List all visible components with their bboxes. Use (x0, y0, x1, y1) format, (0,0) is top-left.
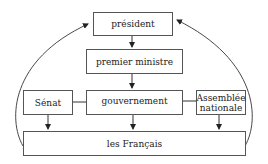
node-label: président (111, 19, 154, 29)
node-president: président (93, 12, 173, 36)
node-gouvernement: gouvernement (86, 90, 183, 115)
node-label: premier ministre (96, 57, 173, 67)
diagram-canvas: président premier ministre Sénat gouvern… (0, 0, 268, 164)
node-assemblee-nationale: Assemblée nationale (196, 90, 246, 115)
node-label-line2: nationale (200, 103, 242, 113)
node-label: les Français (107, 139, 162, 149)
node-senat: Sénat (23, 90, 73, 115)
node-label: Sénat (35, 98, 61, 108)
arrow-curve-left (16, 24, 88, 146)
node-label: gouvernement (101, 96, 167, 106)
node-premier-ministre: premier ministre (86, 49, 183, 74)
node-les-francais: les Français (23, 131, 246, 156)
arrow-curve-right (177, 20, 252, 146)
node-label-line1: Assemblée (197, 93, 246, 103)
